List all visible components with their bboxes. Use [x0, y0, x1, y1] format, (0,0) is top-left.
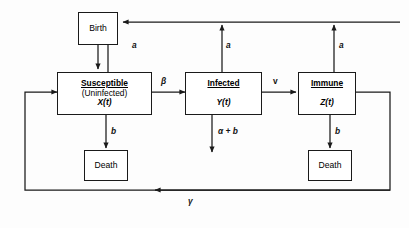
label-a-immune: a: [339, 40, 344, 50]
node-immune-title: Immune: [311, 79, 343, 89]
node-death-left[interactable]: Death: [84, 150, 128, 181]
node-infected-variable: Y(t): [217, 98, 231, 108]
label-gamma: γ: [188, 196, 193, 206]
label-beta: β: [161, 76, 166, 86]
node-death-right-label: Death: [319, 160, 342, 170]
node-immune[interactable]: Immune Z(t): [298, 72, 356, 115]
label-alpha-plus-b: α + b: [218, 126, 238, 136]
label-a-infected: a: [226, 40, 231, 50]
label-nu: v: [273, 76, 278, 86]
node-death-left-label: Death: [95, 160, 118, 170]
node-birth[interactable]: Birth: [78, 12, 118, 45]
node-susceptible-variable: X(t): [98, 98, 112, 108]
node-infected-title: Infected: [207, 79, 239, 89]
label-a-susceptible: a: [132, 40, 137, 50]
label-b-susceptible: b: [111, 126, 116, 136]
node-susceptible[interactable]: Susceptible (Uninfected) X(t): [57, 72, 152, 115]
node-infected[interactable]: Infected Y(t): [185, 72, 262, 115]
diagram-canvas: Birth Susceptible (Uninfected) X(t) Infe…: [0, 0, 409, 228]
node-birth-label: Birth: [89, 23, 107, 33]
node-death-right[interactable]: Death: [308, 150, 352, 181]
label-b-immune: b: [335, 126, 340, 136]
node-immune-variable: Z(t): [320, 98, 333, 108]
